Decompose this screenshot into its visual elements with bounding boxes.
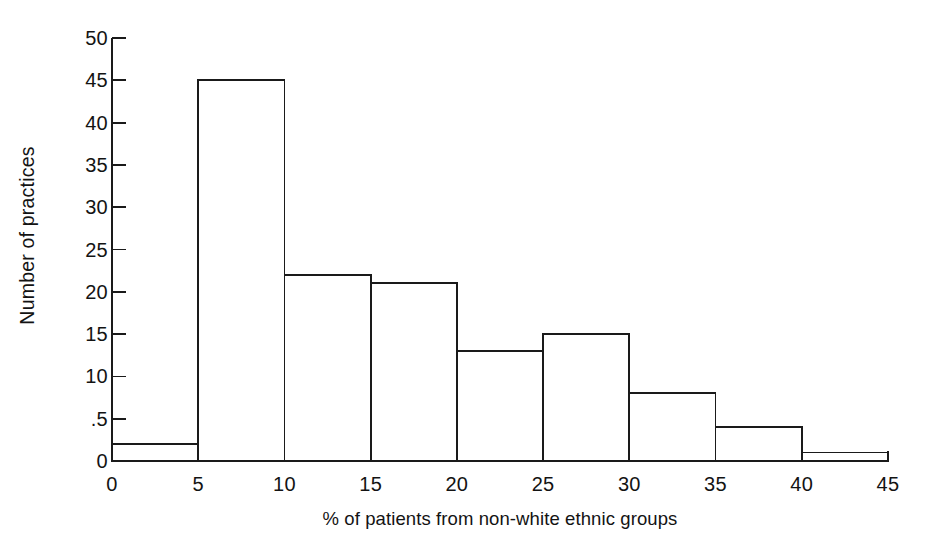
histogram-bar xyxy=(457,351,543,461)
histogram-bar xyxy=(371,283,457,461)
histogram-bar xyxy=(543,334,629,461)
plot-area xyxy=(0,0,939,554)
histogram-figure: Number of practices 0.510152025303540455… xyxy=(0,0,939,554)
histogram-bar xyxy=(802,453,888,461)
histogram-bar xyxy=(112,444,198,461)
histogram-bar xyxy=(198,80,284,461)
histogram-bar xyxy=(716,427,802,461)
histogram-bar xyxy=(629,393,715,461)
histogram-bars xyxy=(112,80,888,461)
histogram-bar xyxy=(284,275,370,461)
